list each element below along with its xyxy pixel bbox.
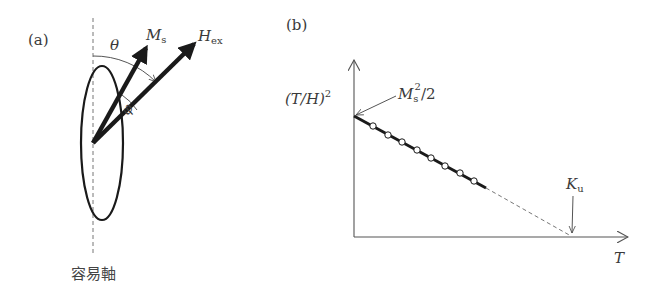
x-axis-label: T [614, 249, 625, 267]
y-axis-label: (T/H)2 [285, 88, 331, 108]
ms-intercept-label: Ms2/2 [397, 81, 435, 104]
ku-intercept-pointer [572, 196, 573, 233]
ms-vector-arrow [93, 48, 146, 143]
magnet-ellipse [81, 66, 123, 220]
data-point [414, 147, 420, 153]
data-point [442, 163, 448, 169]
data-point [457, 170, 463, 176]
ms-label: Ms [145, 26, 167, 45]
data-point [399, 139, 405, 145]
fit-line-dashed [486, 188, 571, 236]
theta-label: θ [110, 36, 119, 54]
data-point [385, 132, 391, 138]
panel-a: (a) θ φ Ms Hex 容易軸 [28, 18, 223, 283]
theta-arc [93, 56, 156, 82]
ku-intercept-label: Ku [565, 175, 584, 194]
data-point [370, 123, 376, 129]
panel-a-label: (a) [28, 31, 49, 49]
panel-b-label: (b) [286, 16, 307, 34]
hex-vector-arrow [93, 44, 194, 143]
data-point [428, 155, 434, 161]
ms-intercept-pointer [356, 96, 396, 115]
panel-b: (b) (T/H)2 T Ms2/2 [285, 16, 628, 267]
figure: (a) θ φ Ms Hex 容易軸 (b) (T/H)2 [0, 0, 655, 293]
easy-axis-label: 容易軸 [71, 265, 116, 283]
hex-label: Hex [197, 27, 223, 46]
data-point [471, 178, 477, 184]
